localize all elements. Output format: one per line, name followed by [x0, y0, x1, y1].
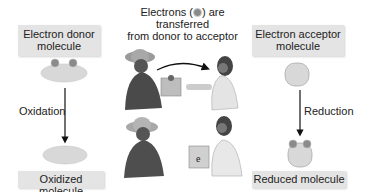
oxidized-molecule — [43, 146, 87, 164]
electron-icon — [303, 140, 311, 148]
reduced-molecule — [288, 140, 312, 167]
acceptor-molecule — [285, 63, 309, 86]
illustration-top-scene — [125, 49, 238, 110]
transfer-arrow — [157, 63, 206, 70]
electron-icon — [69, 59, 77, 67]
diagram-graphics: e — [0, 0, 367, 192]
electron-icon — [289, 140, 297, 148]
illustration-bottom-scene: e — [124, 116, 242, 178]
box-symbol: e — [196, 153, 201, 164]
donor-molecule — [41, 59, 87, 82]
electron-icon — [51, 59, 59, 67]
